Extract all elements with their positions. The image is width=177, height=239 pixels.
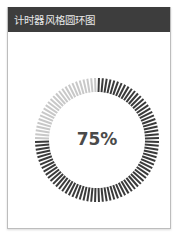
- ring-tick: [83, 79, 86, 93]
- card-header: 计时器风格圆环图: [8, 7, 170, 32]
- chart-card: 计时器风格圆环图 75%: [7, 7, 171, 229]
- ring-tick: [87, 187, 89, 201]
- ring-tick: [107, 187, 110, 201]
- percent-label: 75%: [33, 129, 161, 149]
- ring-tick: [105, 79, 107, 93]
- ring-tick: [102, 188, 103, 202]
- ring-tick: [105, 187, 107, 201]
- ring-tick: [83, 187, 86, 201]
- ring-tick: [36, 150, 50, 153]
- ring-tick: [107, 79, 110, 93]
- ring-tick: [87, 79, 89, 93]
- ring-tick: [91, 78, 92, 92]
- ring-tick: [91, 188, 92, 202]
- ring-tick: [144, 150, 158, 153]
- timer-ring-gauge: 75%: [33, 78, 161, 202]
- ring-tick: [102, 78, 103, 92]
- card-title: 计时器风格圆环图: [14, 12, 96, 27]
